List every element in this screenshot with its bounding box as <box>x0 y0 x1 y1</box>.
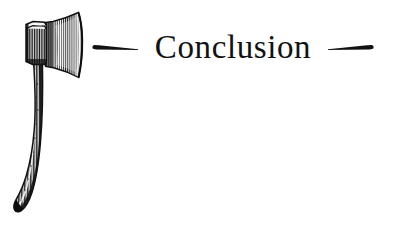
tapered-dash-right-ornament <box>328 40 374 54</box>
heading-block: Conclusion <box>92 26 374 68</box>
conclusion-section: Conclusion <box>0 0 393 226</box>
axe-handle <box>10 58 50 216</box>
page-title: Conclusion <box>145 31 321 64</box>
tapered-dash-left-ornament <box>92 40 138 54</box>
